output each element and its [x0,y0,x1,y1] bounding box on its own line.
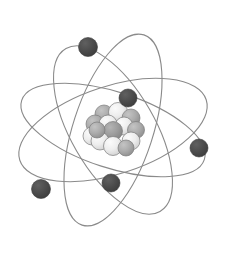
nucleon-sphere-14 [118,140,134,156]
atom-diagram-canvas: electron 1electron 2electron 3electron 4… [0,0,229,257]
electron-right: electron 3 [190,139,208,157]
atom-illustration: electron 1electron 2electron 3electron 4… [0,0,229,257]
nucleon-sphere-13 [89,122,105,138]
electron-top: electron 1 [79,38,98,57]
electron-lower-left: electron 5 [32,180,51,199]
electron-lower-center: electron 4 [102,174,120,192]
electron-upper-middle: electron 2 [119,89,137,107]
